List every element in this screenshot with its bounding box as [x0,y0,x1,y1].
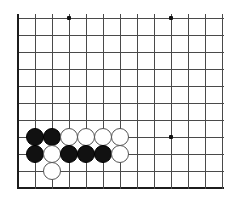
grid-line-vertical [154,14,155,189]
grid-line-vertical [222,14,223,189]
board-bottom-edge [18,187,224,189]
board-left-edge [17,14,19,189]
black-stone[interactable] [60,145,78,163]
white-stone[interactable] [43,162,61,180]
grid-line-horizontal [18,18,224,19]
black-stone[interactable] [26,128,44,146]
white-stone[interactable] [111,128,129,146]
white-stone[interactable] [60,128,78,146]
white-stone[interactable] [43,145,61,163]
grid-line-vertical [171,14,172,189]
black-stone[interactable] [94,145,112,163]
grid-line-vertical [188,14,189,189]
black-stone[interactable] [43,128,61,146]
grid-line-horizontal [18,86,224,87]
grid-line-vertical [205,14,206,189]
white-stone[interactable] [111,145,129,163]
go-board-figure [0,0,230,201]
star-point [169,135,173,139]
black-stone[interactable] [77,145,95,163]
grid-line-horizontal [18,120,224,121]
grid-line-horizontal [18,69,224,70]
star-point [169,16,173,20]
black-stone[interactable] [26,145,44,163]
grid-line-horizontal [18,103,224,104]
white-stone[interactable] [94,128,112,146]
go-board-grid[interactable] [0,0,230,201]
grid-line-horizontal [18,35,224,36]
grid-line-horizontal [18,52,224,53]
star-point [67,16,71,20]
grid-line-vertical [137,14,138,189]
white-stone[interactable] [77,128,95,146]
